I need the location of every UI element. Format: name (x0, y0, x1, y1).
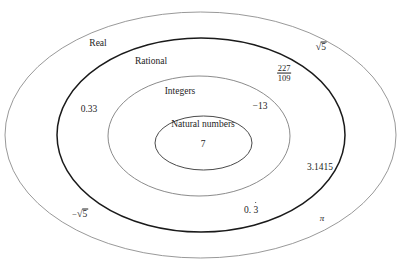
radical-expression: −√5 (72, 209, 88, 220)
set-label-real: Real (89, 39, 106, 49)
radicand: 5 (321, 42, 327, 53)
repeating-digit: 3 (253, 206, 258, 216)
ellipse-real (5, 12, 396, 258)
venn-ellipses (0, 0, 399, 268)
element-zero-point-three-repeating: 0. 3 (244, 206, 258, 216)
ellipse-integers (108, 76, 290, 196)
ellipse-rational (57, 38, 345, 232)
element-square-root-of-five: √5 (316, 42, 327, 53)
set-label-rational: Rational (135, 57, 167, 67)
set-label-integers: Integers (165, 87, 196, 97)
number-sets-diagram: Real Rational Integers Natural numbers 7… (0, 0, 399, 268)
repeating-integer-part: 0. (244, 205, 254, 215)
fraction-denominator: 109 (277, 74, 291, 83)
element-fraction-227-over-109: 227 109 (277, 64, 291, 83)
element-seven: 7 (201, 140, 206, 150)
fraction-stack: 227 109 (277, 64, 291, 83)
element-negative-square-root-of-five: −√5 (72, 209, 88, 220)
element-zero-point-three-three: 0.33 (81, 105, 98, 115)
element-three-point-one-four-one-five: 3.1415 (307, 163, 333, 173)
radicand: 5 (82, 209, 88, 220)
set-label-natural-numbers: Natural numbers (171, 120, 235, 130)
repeating-digit-wrap: 3 (253, 206, 258, 216)
element-pi: π (320, 214, 325, 223)
element-negative-thirteen: −13 (253, 102, 268, 112)
radical-expression: √5 (316, 42, 327, 53)
